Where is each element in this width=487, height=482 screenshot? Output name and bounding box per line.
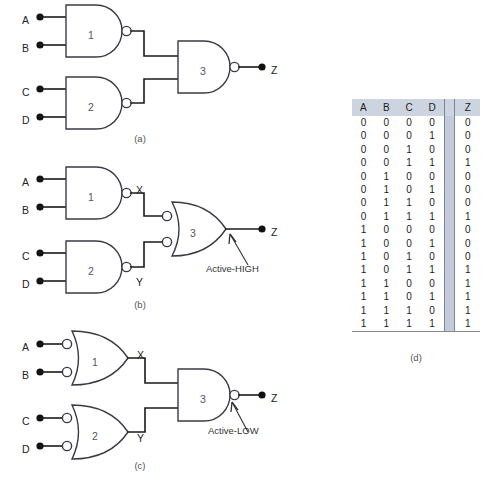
table-row: 1110 1 <box>352 304 480 317</box>
gate-1-input-bubble-bottom <box>62 367 71 376</box>
cell-a: 1 <box>352 223 375 236</box>
panel-a-label-b: B <box>22 42 29 54</box>
cell-b: 1 <box>375 170 398 183</box>
cell-a: 1 <box>352 304 375 317</box>
panel-a-caption: (a) <box>134 133 146 144</box>
cell-separator <box>444 143 455 156</box>
cell-d: 1 <box>421 183 444 196</box>
cell-z: 0 <box>455 196 480 209</box>
panel-b-label-d: D <box>22 278 30 290</box>
cell-separator <box>444 277 455 290</box>
cell-c: 0 <box>398 129 421 142</box>
cell-a: 0 <box>352 183 375 196</box>
panel-b-gate-3-number: 3 <box>190 227 196 239</box>
gate-1-input-bubble-top <box>62 339 71 348</box>
output-terminal-z <box>258 225 265 232</box>
panel-c-label-z: Z <box>271 392 277 404</box>
cell-c: 1 <box>398 250 421 263</box>
cell-a: 0 <box>352 156 375 169</box>
cell-b: 0 <box>375 237 398 250</box>
panel-d-caption-wrap: (d) <box>352 352 480 363</box>
cell-b: 1 <box>375 210 398 223</box>
cell-d: 1 <box>421 210 444 223</box>
cell-z: 0 <box>455 250 480 263</box>
truth-table: A B C D Z 0000 00001 00010 00011 10100 0… <box>352 99 480 331</box>
cell-d: 1 <box>421 237 444 250</box>
column-separator <box>444 99 455 116</box>
cell-a: 0 <box>352 129 375 142</box>
cell-separator <box>444 304 455 317</box>
cell-d: 1 <box>421 129 444 142</box>
cell-b: 1 <box>375 183 398 196</box>
cell-separator <box>444 196 455 209</box>
cell-separator <box>444 210 455 223</box>
panel-c-diagram <box>0 325 310 475</box>
table-row: 1100 1 <box>352 277 480 290</box>
panel-c-gate-2-number: 2 <box>92 430 98 442</box>
cell-a: 0 <box>352 196 375 209</box>
cell-d: 0 <box>421 304 444 317</box>
panel-a-label-a: A <box>22 14 29 26</box>
cell-z: 1 <box>455 210 480 223</box>
cell-z: 0 <box>455 116 480 129</box>
cell-a: 1 <box>352 290 375 303</box>
panel-b-label-c: C <box>22 250 30 262</box>
cell-a: 1 <box>352 317 375 330</box>
panel-b-diagram <box>0 160 310 310</box>
cell-separator <box>444 156 455 169</box>
output-terminal-z <box>258 391 265 398</box>
table-row: 0001 0 <box>352 129 480 142</box>
table-row: 0000 0 <box>352 116 480 129</box>
cell-d: 0 <box>421 223 444 236</box>
cell-b: 1 <box>375 277 398 290</box>
cell-b: 0 <box>375 223 398 236</box>
cell-d: 0 <box>421 170 444 183</box>
panel-c-gate-1-number: 1 <box>92 356 98 368</box>
cell-z: 0 <box>455 129 480 142</box>
cell-z: 1 <box>455 317 480 330</box>
cell-a: 0 <box>352 170 375 183</box>
table-row: 0011 1 <box>352 156 480 169</box>
panel-a-gate-2-number: 2 <box>88 101 94 113</box>
cell-z: 1 <box>455 277 480 290</box>
cell-a: 1 <box>352 250 375 263</box>
cell-separator <box>444 116 455 129</box>
cell-a: 1 <box>352 237 375 250</box>
logic-gate-figure: A B C D Z 1 2 3 (a) <box>0 0 487 482</box>
cell-a: 0 <box>352 116 375 129</box>
cell-a: 1 <box>352 263 375 276</box>
cell-z: 0 <box>455 170 480 183</box>
panel-a-label-d: D <box>22 114 30 126</box>
cell-c: 1 <box>398 196 421 209</box>
panel-b-label-x: X <box>136 184 143 196</box>
cell-c: 1 <box>398 143 421 156</box>
panel-b-label-a: A <box>22 176 29 188</box>
cell-a: 1 <box>352 277 375 290</box>
cell-c: 0 <box>398 237 421 250</box>
panel-b-annotation-active-high: Active-HIGH <box>206 263 259 274</box>
cell-d: 1 <box>421 317 444 330</box>
panel-b-gate-2-number: 2 <box>88 265 94 277</box>
gate-2-input-bubble-bottom <box>62 441 71 450</box>
cell-c: 0 <box>398 116 421 129</box>
cell-d: 1 <box>421 290 444 303</box>
panel-d-caption: (d) <box>410 352 422 363</box>
cell-b: 1 <box>375 290 398 303</box>
gate-2-input-bubble-top <box>62 413 71 422</box>
gate-3-input-bubble-top <box>162 211 171 220</box>
panel-c-gate-3-number: 3 <box>200 393 206 405</box>
cell-z: 1 <box>455 156 480 169</box>
table-row: 0111 1 <box>352 210 480 223</box>
cell-c: 0 <box>398 170 421 183</box>
cell-z: 1 <box>455 290 480 303</box>
cell-c: 1 <box>398 263 421 276</box>
table-row: 1011 1 <box>352 263 480 276</box>
cell-separator <box>444 250 455 263</box>
cell-c: 1 <box>398 317 421 330</box>
cell-separator <box>444 237 455 250</box>
cell-b: 0 <box>375 116 398 129</box>
output-terminal-z <box>258 63 265 70</box>
gate-3-input-bubble-bottom <box>162 237 171 246</box>
column-header-a: A <box>352 99 375 116</box>
cell-a: 0 <box>352 143 375 156</box>
